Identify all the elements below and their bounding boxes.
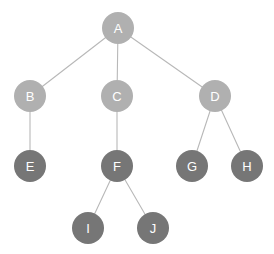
tree-node-i[interactable]: I bbox=[72, 212, 104, 244]
tree-node-c[interactable]: C bbox=[101, 80, 133, 112]
tree-node-circle-b[interactable] bbox=[14, 80, 46, 112]
tree-node-d[interactable]: D bbox=[199, 80, 231, 112]
edge-layer bbox=[30, 28, 247, 228]
tree-node-circle-e[interactable] bbox=[14, 150, 46, 182]
tree-node-circle-i[interactable] bbox=[72, 212, 104, 244]
tree-node-f[interactable]: F bbox=[101, 150, 133, 182]
tree-diagram: ABCDEFGHIJ bbox=[0, 0, 274, 254]
tree-node-circle-a[interactable] bbox=[102, 12, 134, 44]
tree-node-j[interactable]: J bbox=[137, 212, 169, 244]
tree-node-e[interactable]: E bbox=[14, 150, 46, 182]
tree-node-a[interactable]: A bbox=[102, 12, 134, 44]
tree-node-h[interactable]: H bbox=[231, 150, 263, 182]
tree-node-b[interactable]: B bbox=[14, 80, 46, 112]
tree-edge-a-d bbox=[118, 28, 215, 96]
tree-node-circle-g[interactable] bbox=[176, 150, 208, 182]
tree-node-circle-f[interactable] bbox=[101, 150, 133, 182]
tree-node-circle-c[interactable] bbox=[101, 80, 133, 112]
tree-node-g[interactable]: G bbox=[176, 150, 208, 182]
tree-node-circle-d[interactable] bbox=[199, 80, 231, 112]
tree-node-circle-j[interactable] bbox=[137, 212, 169, 244]
node-layer: ABCDEFGHIJ bbox=[14, 12, 263, 244]
tree-node-circle-h[interactable] bbox=[231, 150, 263, 182]
